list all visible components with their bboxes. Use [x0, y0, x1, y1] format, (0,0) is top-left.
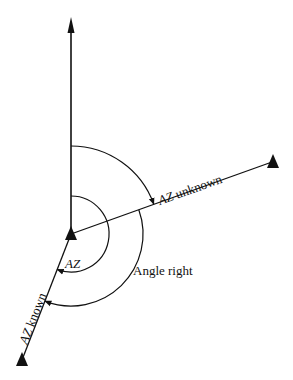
forward-station-triangle-icon	[267, 154, 279, 168]
backsight-station-triangle-icon	[16, 352, 28, 366]
az-label: AZ	[64, 256, 81, 271]
north-arrow-icon	[68, 17, 75, 33]
az-unknown-label-rest: unknown	[170, 171, 224, 203]
angle-right-label: Angle right	[133, 263, 193, 278]
azimuth-diagram: AZ unknown AZ known AZ Angle right	[0, 0, 293, 380]
az-unknown-label: AZ unknown	[155, 171, 224, 208]
az-known-label-rest: known	[21, 290, 49, 332]
az-known-label: AZ known	[15, 290, 49, 347]
angle-right-arc	[45, 210, 143, 306]
az-unknown-arc	[71, 146, 154, 204]
